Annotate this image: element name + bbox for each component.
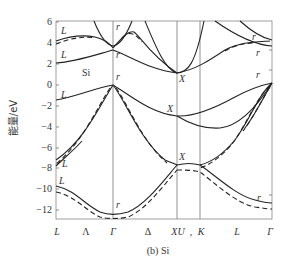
svg-text:−8: −8 <box>41 162 52 173</box>
svg-text:0: 0 <box>47 79 52 90</box>
svg-text:L: L <box>233 226 240 237</box>
symmetry-point-labels: L L L L L r r r r X X X r r r r <box>58 21 261 210</box>
svg-text:,: , <box>190 226 193 237</box>
x-tick-labels: L Λ Γ Δ XU , K L Γ <box>53 226 273 237</box>
svg-text:X: X <box>178 151 186 162</box>
bands <box>56 21 272 219</box>
y-tick-labels: 6 4 2 0 −2 −4 −6 −8 −10 −12 <box>36 16 52 215</box>
y-tick-marks <box>56 22 272 210</box>
figure-caption: (b) Si <box>147 245 170 257</box>
svg-text:r: r <box>116 199 120 210</box>
svg-text:L: L <box>61 158 68 169</box>
svg-text:L: L <box>60 89 67 100</box>
svg-text:K: K <box>197 226 206 237</box>
svg-text:−10: −10 <box>36 183 52 194</box>
svg-text:L: L <box>60 25 67 36</box>
svg-text:−4: −4 <box>41 121 52 132</box>
band-structure-figure: 6 4 2 0 −2 −4 −6 −8 −10 −12 能量/eV L Λ Γ … <box>0 0 282 260</box>
svg-text:r: r <box>116 49 120 60</box>
svg-text:Λ: Λ <box>82 226 90 237</box>
svg-text:L: L <box>60 49 67 60</box>
svg-text:Γ: Γ <box>266 226 273 237</box>
svg-text:L: L <box>58 175 65 186</box>
svg-text:2: 2 <box>47 58 52 69</box>
svg-text:r: r <box>116 21 120 32</box>
svg-text:−12: −12 <box>36 204 52 215</box>
svg-text:X: X <box>178 73 186 84</box>
y-axis-label: 能量/eV <box>7 100 19 137</box>
svg-text:r: r <box>116 71 120 82</box>
svg-text:−2: −2 <box>41 100 52 111</box>
svg-text:−6: −6 <box>41 142 52 153</box>
svg-text:L: L <box>53 226 60 237</box>
svg-text:6: 6 <box>47 16 52 27</box>
svg-text:r: r <box>256 69 260 80</box>
svg-text:XU: XU <box>170 226 185 237</box>
svg-text:Γ: Γ <box>109 226 116 237</box>
svg-text:r: r <box>256 47 260 58</box>
svg-text:r: r <box>252 31 256 42</box>
svg-text:r: r <box>257 192 261 203</box>
material-label: Si <box>82 67 91 78</box>
svg-text:X: X <box>166 103 174 114</box>
svg-text:4: 4 <box>47 37 52 48</box>
svg-text:Δ: Δ <box>145 226 152 237</box>
